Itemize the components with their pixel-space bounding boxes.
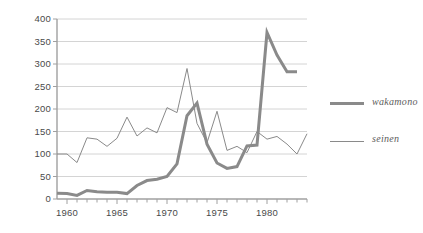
legend-item-seinen: seinen [330,132,420,169]
series-line-seinen [57,69,307,163]
legend-label: wakamono [372,96,418,107]
legend-item-wakamono: wakamono [330,95,420,132]
y-tick-label: 350 [17,36,51,47]
y-tick-label: 200 [17,103,51,114]
series-line-wakamono [57,33,297,196]
y-tick-label: 0 [17,193,51,204]
y-tick-label: 100 [17,148,51,159]
y-tick-label: 50 [17,171,51,182]
x-axis-ticks [67,199,307,204]
x-tick-label: 1975 [197,207,237,218]
y-tick-label: 300 [17,58,51,69]
legend-line-swatch [330,102,364,105]
x-tick-label: 1965 [97,207,137,218]
y-tick-label: 150 [17,126,51,137]
legend-label: seinen [372,133,399,144]
x-tick-label: 1970 [147,207,187,218]
series-lines [57,33,307,196]
x-tick-label: 1960 [47,207,87,218]
y-tick-label: 250 [17,81,51,92]
gridlines [57,19,307,177]
y-tick-label: 400 [17,13,51,24]
legend-line-swatch [330,141,364,142]
line-chart: 050100150200250300350400 196019651970197… [0,0,315,233]
chart-screenshot: 050100150200250300350400 196019651970197… [0,0,423,233]
x-tick-label: 1980 [247,207,287,218]
chart-legend: wakamonoseinen [330,95,420,169]
